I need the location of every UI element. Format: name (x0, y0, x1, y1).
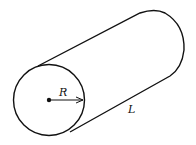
cylinder-diagram: R L (0, 0, 196, 145)
length-label: L (127, 103, 135, 116)
radius-label: R (58, 86, 67, 99)
